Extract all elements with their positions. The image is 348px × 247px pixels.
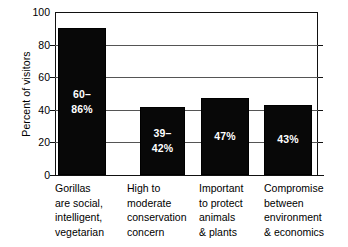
y-tick-label-20: 20 (18, 137, 50, 147)
bar-value-label-4: 43% (277, 132, 299, 147)
category-label-2: High to moderate conservation concern (127, 181, 187, 239)
category-label-3: Important to protect animals & plants (199, 181, 243, 239)
bar-gorillas-are-social[interactable]: 60– 86% (58, 28, 106, 175)
y-tick-mark-right-40 (318, 110, 323, 111)
y-tick-label-100: 100 (18, 7, 50, 17)
bar-high-to-moderate-conservation[interactable]: 39– 42% (140, 107, 185, 176)
bar-compromise-between[interactable]: 43% (264, 105, 312, 175)
y-tick-label-80: 80 (18, 40, 50, 50)
bar-value-label-2: 39– 42% (152, 126, 174, 156)
y-tick-label-60: 60 (18, 72, 50, 82)
y-tick-mark-right-20 (318, 142, 323, 143)
y-tick-mark-right-80 (318, 45, 323, 46)
bar-chart: Percent of visitors 0 20 40 60 80 100 60… (0, 0, 348, 247)
y-axis-tick-labels: 0 20 40 60 80 100 (18, 0, 50, 247)
x-axis-category-labels: Gorillas are social, intelligent, vegeta… (55, 181, 348, 247)
x-axis-baseline (50, 175, 324, 176)
bar-value-label-1: 60– 86% (71, 87, 93, 117)
y-tick-mark-60 (50, 77, 55, 78)
category-label-1: Gorillas are social, intelligent, vegeta… (55, 181, 104, 239)
plot-area: 60– 86% 39– 42% 47% 43% (55, 12, 318, 175)
bar-value-label-3: 47% (214, 129, 236, 144)
bar-important-to-protect[interactable]: 47% (201, 98, 249, 175)
y-tick-mark-right-60 (318, 77, 323, 78)
category-label-4: Compromise between environment & economi… (264, 181, 324, 239)
y-tick-label-40: 40 (18, 105, 50, 115)
y-tick-label-0: 0 (18, 170, 50, 180)
y-tick-mark-40 (50, 110, 55, 111)
y-tick-mark-80 (50, 45, 55, 46)
y-tick-mark-20 (50, 142, 55, 143)
